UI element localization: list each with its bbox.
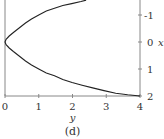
y-tick-label: 2 — [147, 91, 153, 102]
figure-caption: (d) — [65, 125, 81, 138]
y-tick-label: 0 — [147, 37, 153, 48]
x-tick-label: 4 — [137, 101, 143, 112]
x-axis-label: y — [69, 112, 76, 123]
parabola-curve — [5, 0, 140, 96]
x-tick-label: 3 — [103, 101, 109, 112]
x-tick-label: 0 — [2, 101, 8, 112]
x-tick-label: 1 — [36, 101, 42, 112]
y-axis-label: x — [158, 37, 164, 48]
chart: 0 1 2 3 4 -1 0 1 2 y x (d) — [0, 0, 164, 139]
y-tick-label: 1 — [147, 64, 153, 75]
y-tick-label: -1 — [144, 10, 154, 21]
x-tick-label: 2 — [69, 101, 75, 112]
